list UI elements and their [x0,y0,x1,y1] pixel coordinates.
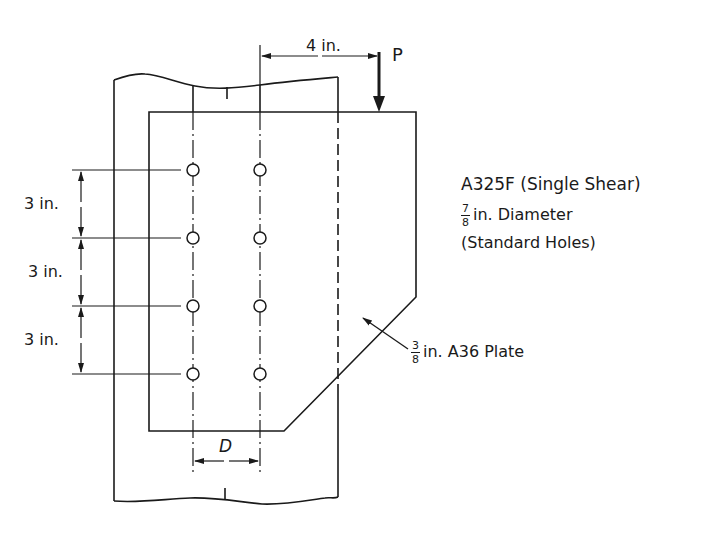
fraction-denominator: 8 [462,216,469,228]
connection-drawing [0,0,710,535]
bolt-row-extension-lines [72,170,181,374]
bolt-hole [254,368,266,380]
bolt-spec-note: A325F (Single Shear) [461,176,641,193]
bolt-spacing-label-2: 3 in. [28,264,63,280]
member-bottom-break-line [114,497,338,504]
bolt-hole [187,300,199,312]
fraction-denominator: 8 [412,353,419,365]
hole-diameter-note: 7 8 in. Diameter [461,203,572,228]
plate-spec-text: in. A36 Plate [423,342,524,361]
plate-thickness-fraction: 3 8 [411,340,420,365]
bolt-holes [187,164,266,380]
load-offset-label: 4 in. [306,38,341,54]
bracket-plate [149,112,416,431]
bolt-hole [187,232,199,244]
bolt-gauge-lines [193,45,260,472]
hole-diameter-fraction: 7 8 [461,203,470,228]
hole-type-note: (Standard Holes) [461,235,596,251]
bolt-hole [254,300,266,312]
fraction-numerator: 3 [411,340,420,353]
bolt-hole [187,164,199,176]
bolt-spacing-label-1: 3 in. [24,196,59,212]
hole-diameter-text: in. Diameter [473,205,572,224]
bolt-hole [254,232,266,244]
load-arrow-head [373,96,385,112]
plate-spec-note: 3 8 in. A36 Plate [411,340,524,365]
fraction-numerator: 7 [461,203,470,216]
bolt-spacing-label-3: 3 in. [24,332,59,348]
member-top-break-line [114,74,338,88]
load-label-p: P [392,46,403,64]
gauge-label-d: D [219,438,232,455]
bolt-hole [187,368,199,380]
bolt-hole [254,164,266,176]
